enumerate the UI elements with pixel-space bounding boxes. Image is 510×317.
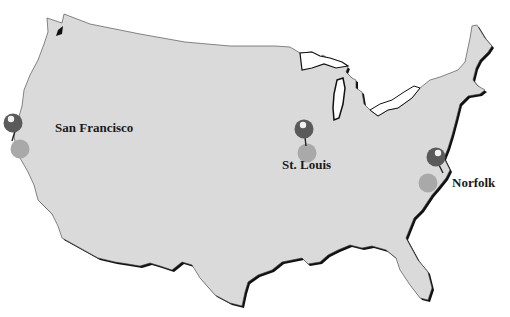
- pin-norfolk[interactable]: [419, 148, 446, 193]
- pin-shadow: [11, 140, 30, 159]
- us-map: San Francisco St. Louis Norfolk: [0, 0, 510, 317]
- label-norfolk: Norfolk: [452, 176, 495, 189]
- pin-san-francisco[interactable]: [4, 114, 30, 159]
- pin-shadow: [419, 174, 438, 193]
- pins-layer: [0, 0, 510, 317]
- map-pin-icon: [4, 114, 23, 133]
- map-pin-icon: [427, 148, 446, 167]
- label-st-louis: St. Louis: [282, 158, 331, 171]
- label-san-francisco: San Francisco: [55, 121, 133, 134]
